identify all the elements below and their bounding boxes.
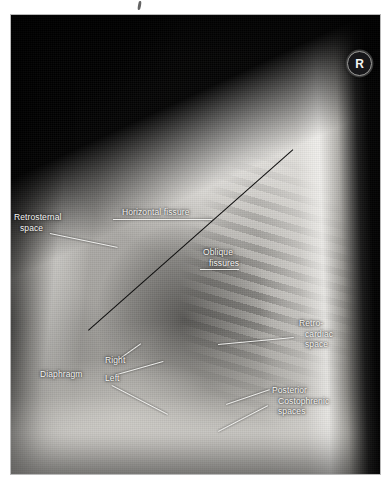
annotation-label-diaphragm: Diaphragm — [40, 369, 82, 380]
horizontal-fissure-leader-1 — [113, 219, 212, 220]
annotation-label-diaphragm-line-1: Diaphragm — [40, 369, 82, 380]
annotation-label-retrosternal-space: Retrosternalspace — [14, 212, 62, 233]
annotation-label-oblique-fissures: Obliquefissures — [203, 247, 239, 268]
annotation-label-posterior-costophrenic-spaces-line-3: spaces — [272, 406, 329, 417]
annotation-label-retrosternal-space-line-2: space — [14, 223, 62, 234]
lateral-chest-xray-panel: R RetrosternalspaceHorizontal fissureObl… — [11, 15, 380, 474]
annotation-label-diaphragm-right: Right — [105, 355, 125, 366]
annotation-label-posterior-costophrenic-spaces-line-1: Posterior — [272, 385, 329, 396]
annotation-label-diaphragm-right-line-1: Right — [105, 355, 125, 366]
annotation-label-retro-cardiac-space-line-2: cardiac — [299, 329, 333, 340]
right-side-marker-letter: R — [355, 58, 364, 70]
annotation-label-posterior-costophrenic-spaces-line-2: Costophrenic — [272, 396, 329, 407]
annotation-label-horizontal-fissure: Horizontal fissure — [122, 207, 189, 218]
annotation-label-diaphragm-left: Left — [105, 373, 120, 384]
annotation-label-horizontal-fissure-line-1: Horizontal fissure — [122, 207, 189, 218]
oblique-fissures-leader-1 — [200, 269, 239, 270]
right-side-marker: R — [347, 51, 372, 76]
annotation-label-retrosternal-space-line-1: Retrosternal — [14, 212, 62, 223]
annotation-label-retro-cardiac-space-line-3: space — [299, 339, 333, 350]
annotation-label-retro-cardiac-space-line-1: Retro- — [299, 318, 333, 329]
annotation-label-posterior-costophrenic-spaces: PosteriorCostophrenicspaces — [272, 385, 329, 417]
annotation-label-diaphragm-left-line-1: Left — [105, 373, 120, 384]
radiograph-figure: R RetrosternalspaceHorizontal fissureObl… — [0, 0, 392, 488]
annotation-label-oblique-fissures-line-1: Oblique — [203, 247, 239, 258]
annotation-label-retro-cardiac-space: Retro-cardiacspace — [299, 318, 333, 350]
page-ink-speck — [137, 1, 141, 10]
annotation-label-oblique-fissures-line-2: fissures — [203, 258, 239, 269]
